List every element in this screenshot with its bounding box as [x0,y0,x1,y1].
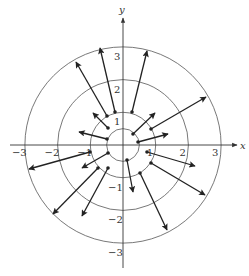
x-tick-label: −3 [12,147,27,158]
vector-arrow [82,166,110,216]
arrow-tail-dot [105,137,109,141]
vector-arrow [79,132,109,141]
y-tick-label: −1 [108,182,123,193]
vector-arrow [149,97,206,131]
arrow-tail-dot [145,150,149,154]
arrow-tail-dot [105,114,109,118]
arrow-tail-dot [113,110,117,114]
vector-arrow [138,171,167,230]
arrow-tail-dot [96,166,100,170]
x-tick-label: 2 [179,147,185,158]
y-tick-labels: 321−1−2−3 [108,51,123,258]
x-tick-label: 3 [212,147,218,158]
x-tick-label: −2 [45,147,60,158]
vector-arrows [29,48,206,230]
vector-arrow [136,134,168,144]
arrow-tail-dot [130,110,134,114]
arrow-tail-dot [149,161,153,165]
arrow-tail-dot [149,127,153,131]
arrow-tail-dot [136,140,140,144]
arrow-tail-dot [106,126,110,130]
arrow-tail-dot [106,166,110,170]
y-tick-label: 1 [114,116,120,127]
y-tick-label: 3 [114,51,120,62]
vector-arrow [53,166,100,214]
x-axis-label: x [240,140,246,151]
y-axis-label: y [118,4,125,15]
arrow-tail-dot [125,158,129,162]
y-tick-label: −3 [108,247,123,258]
vector-arrow [125,158,133,192]
vector-field-diagram: x y −3−2−1123 321−1−2−3 [0,0,249,276]
y-tick-label: −2 [108,214,123,225]
arrow-tail-dot [88,150,92,154]
vector-arrow [76,62,109,118]
arrow-tail-dot [106,151,110,155]
arrow-tail-dot [138,171,142,175]
vector-arrow [149,161,205,195]
vector-arrow [130,51,147,114]
vector-arrow [131,113,155,136]
y-tick-label: 2 [114,84,120,95]
arrow-tail-dot [131,132,135,136]
